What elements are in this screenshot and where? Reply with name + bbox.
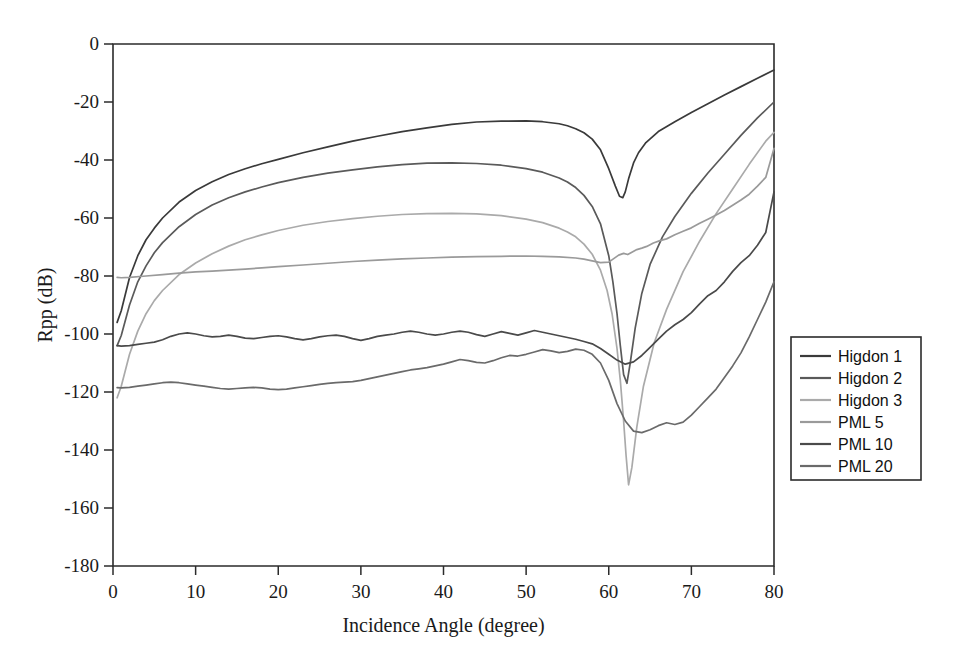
chart-figure: 0-20-40-60-80-100-120-140-160-1800102030… (0, 0, 970, 666)
y-tick-label: -120 (64, 381, 99, 402)
y-axis-title: Rpp (dB) (34, 268, 57, 343)
legend-label-4: PML 5 (838, 414, 884, 431)
x-tick-label: 30 (351, 581, 370, 602)
y-tick-label: -180 (64, 555, 99, 576)
x-tick-label: 10 (186, 581, 205, 602)
legend-label-6: PML 20 (838, 458, 893, 475)
series-line-higdon-2 (117, 102, 774, 383)
y-tick-label: -20 (74, 91, 99, 112)
y-tick-label: -140 (64, 439, 99, 460)
x-tick-label: 50 (517, 581, 536, 602)
legend-label-2: Higdon 2 (838, 370, 902, 387)
line-chart: 0-20-40-60-80-100-120-140-160-1800102030… (0, 0, 970, 666)
series-line-higdon-3 (117, 132, 774, 484)
x-axis-title: Incidence Angle (degree) (342, 614, 544, 637)
series-line-higdon-1 (117, 70, 774, 322)
y-tick-label: 0 (90, 33, 100, 54)
y-tick-label: -40 (74, 149, 99, 170)
x-tick-label: 20 (269, 581, 288, 602)
y-tick-label: -60 (74, 207, 99, 228)
x-tick-label: 0 (108, 581, 118, 602)
series-line-pml-10 (117, 192, 774, 364)
series-line-pml-20 (117, 282, 774, 433)
x-tick-label: 60 (599, 581, 618, 602)
x-tick-label: 70 (682, 581, 701, 602)
y-tick-label: -80 (74, 265, 99, 286)
x-tick-label: 80 (765, 581, 784, 602)
legend-label-3: Higdon 3 (838, 392, 902, 409)
y-tick-label: -160 (64, 497, 99, 518)
x-tick-label: 40 (434, 581, 453, 602)
y-tick-label: -100 (64, 323, 99, 344)
legend-label-5: PML 10 (838, 436, 893, 453)
legend-label-1: Higdon 1 (838, 348, 902, 365)
